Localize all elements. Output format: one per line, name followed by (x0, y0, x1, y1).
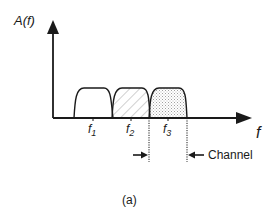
x-axis-arrow-icon (236, 112, 252, 124)
x-axis-label: f (256, 124, 260, 142)
channel-label: Channel (208, 148, 253, 162)
f3-label: f3 (163, 122, 171, 138)
y-axis-label: A(f) (14, 13, 35, 28)
f2-label: f2 (126, 122, 134, 138)
f1-label: f1 (88, 122, 96, 138)
arrow-left-icon (188, 152, 195, 159)
y-axis-arrow-icon (47, 20, 59, 34)
figure-caption: (a) (122, 193, 137, 207)
channel-3-fill (149, 88, 187, 118)
channel-1-passband (74, 88, 113, 118)
channel-2-fill (112, 88, 150, 118)
arrow-right-icon (141, 152, 148, 159)
spectrum-diagram (0, 0, 277, 223)
